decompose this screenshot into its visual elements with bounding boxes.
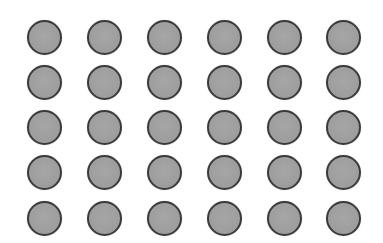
gray-circle-icon xyxy=(87,201,122,236)
gray-circle-icon xyxy=(326,201,361,236)
gray-circle-icon xyxy=(147,110,182,145)
gray-circle-icon xyxy=(27,155,62,190)
gray-circle-icon xyxy=(87,20,122,55)
gray-circle-icon xyxy=(267,155,302,190)
gray-circle-icon xyxy=(267,20,302,55)
gray-circle-icon xyxy=(147,65,182,100)
gray-circle-icon xyxy=(267,110,302,145)
gray-circle-icon xyxy=(27,201,62,236)
gray-circle-icon xyxy=(147,201,182,236)
gray-circle-icon xyxy=(207,20,242,55)
circle-grid-canvas xyxy=(0,0,383,243)
gray-circle-icon xyxy=(207,201,242,236)
gray-circle-icon xyxy=(207,110,242,145)
gray-circle-icon xyxy=(267,201,302,236)
gray-circle-icon xyxy=(87,155,122,190)
gray-circle-icon xyxy=(27,110,62,145)
gray-circle-icon xyxy=(87,110,122,145)
gray-circle-icon xyxy=(27,20,62,55)
gray-circle-icon xyxy=(87,65,122,100)
gray-circle-icon xyxy=(147,155,182,190)
gray-circle-icon xyxy=(207,155,242,190)
gray-circle-icon xyxy=(267,65,302,100)
gray-circle-icon xyxy=(147,20,182,55)
gray-circle-icon xyxy=(326,110,361,145)
gray-circle-icon xyxy=(326,65,361,100)
gray-circle-icon xyxy=(326,20,361,55)
gray-circle-icon xyxy=(326,155,361,190)
gray-circle-icon xyxy=(27,65,62,100)
gray-circle-icon xyxy=(207,65,242,100)
